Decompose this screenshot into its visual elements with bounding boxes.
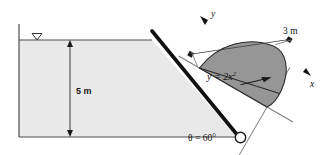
depth-label: 5 m: [76, 86, 92, 96]
diagram-canvas: 5 m θ = 60°: [0, 0, 329, 155]
axis-x-label: x: [309, 79, 315, 89]
curve-equation-base: y = 2x: [206, 71, 233, 82]
figure-root: 5 m θ = 60°: [0, 0, 329, 155]
gate-length-tick-end-icon: [286, 36, 293, 43]
water-region: [19, 40, 237, 137]
axis-y-arrow-icon: [200, 16, 208, 25]
gate-angle-label: θ = 60°: [188, 133, 216, 143]
hinge-pin: [235, 132, 245, 142]
axis-y-label: y: [210, 9, 216, 19]
curve-equation-label: y = 2x2: [206, 70, 237, 82]
gate-length-label: 3 m: [283, 26, 298, 36]
free-surface-triangle-icon: [32, 34, 42, 41]
axis-x-arrow-icon: [303, 68, 311, 76]
